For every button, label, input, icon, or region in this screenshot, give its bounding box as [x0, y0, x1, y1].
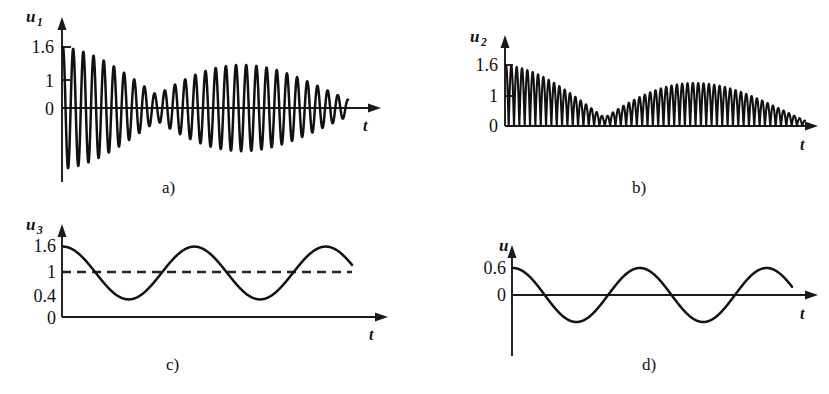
- x-axis-arrow-b: [805, 122, 818, 131]
- y-axis-arrow-a: [58, 17, 67, 30]
- y-axis-subscript-a: 1: [37, 16, 43, 28]
- panel-b: u 2 1.6 1 0 t: [440, 0, 829, 200]
- y-axis-subscript-c: 3: [36, 224, 43, 236]
- y-axis-arrow-b: [501, 35, 510, 48]
- y-axis-label-a: u: [26, 7, 35, 26]
- y-tick-label-1point6-b: 1.6: [476, 55, 499, 75]
- y-axis-arrow-c: [58, 224, 67, 237]
- panel-c-labels: u 3 1.6 1 0.4 0 t: [26, 215, 374, 343]
- y-tick-label-0-c: 0: [47, 308, 56, 328]
- y-tick-label-0point6-d: 0.6: [484, 258, 507, 278]
- panel-caption-c: c): [166, 355, 179, 375]
- x-axis-label-a: t: [363, 117, 368, 134]
- panel-caption-d: d): [642, 355, 656, 375]
- y-tick-label-0-b: 0: [489, 116, 498, 136]
- y-tick-label-1-b: 1: [489, 86, 498, 106]
- panel-a: u 1 1.6 1 0 t: [0, 0, 420, 200]
- y-tick-label-0-d: 0: [497, 285, 506, 305]
- y-tick-label-1point6-a: 1.6: [32, 37, 55, 57]
- panel-d: u 0.6 0 t: [440, 200, 829, 394]
- y-tick-label-0point4-c: 0.4: [34, 286, 57, 306]
- y-tick-label-1point6-c: 1.6: [34, 236, 57, 256]
- waveform-curve-b: [506, 65, 805, 126]
- x-axis-arrow-d: [805, 291, 818, 300]
- y-tick-label-1-c: 1: [47, 262, 56, 282]
- y-axis-subscript-b: 2: [480, 36, 487, 48]
- panel-caption-b: b): [632, 178, 646, 198]
- y-axis-label-d: u: [499, 236, 508, 255]
- panel-caption-a: a): [162, 178, 175, 198]
- y-axis-label-b: u: [470, 27, 479, 46]
- y-tick-label-0-a: 0: [45, 99, 54, 119]
- x-axis-label-c: t: [369, 326, 374, 343]
- figure-waveform-panels: u 1 1.6 1 0 t u 2 1.6: [0, 0, 829, 394]
- x-axis-arrow-a: [368, 104, 381, 113]
- x-axis-label-d: t: [800, 305, 805, 322]
- panel-d-axes: [508, 245, 819, 356]
- y-axis-arrow-d: [508, 245, 517, 258]
- x-axis-arrow-c: [375, 313, 388, 322]
- panel-c: u 3 1.6 1 0.4 0 t: [0, 200, 420, 394]
- y-tick-label-1-a: 1: [45, 71, 54, 91]
- y-axis-label-c: u: [26, 215, 35, 234]
- x-axis-label-b: t: [800, 136, 805, 153]
